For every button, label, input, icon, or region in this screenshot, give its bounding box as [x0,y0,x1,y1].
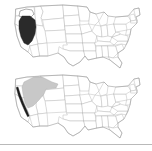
footer-divider-rule [0,144,152,145]
upper-us-map-svg [0,0,152,70]
range-map-figure [0,0,152,151]
lower-us-map-svg [0,70,152,140]
lower-range-map-panel [0,70,152,140]
upper-range-map-panel [0,0,152,70]
